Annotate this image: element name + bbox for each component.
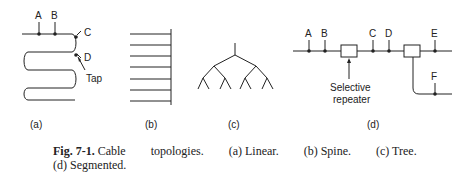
point-d-label: D xyxy=(385,28,392,39)
caption-part-c: (c) Tree. xyxy=(376,144,417,158)
point-c-label: C xyxy=(84,27,91,38)
selective-label: Selective xyxy=(330,82,371,93)
point-b-label: B xyxy=(321,28,328,39)
panel-c-label: (c) xyxy=(228,119,240,130)
panel-d-label: (d) xyxy=(367,119,379,130)
caption-part-a: (a) Linear. xyxy=(229,144,279,158)
point-b-label: B xyxy=(51,10,58,21)
figure-caption: Fig. 7-1. Cable topologies. (a) Linear. … xyxy=(53,144,453,172)
caption-part-d: (d) Segmented. xyxy=(53,158,126,172)
point-a-label: A xyxy=(305,28,312,39)
cable-topologies-figure: A B C D Tap (a) (b) (c) A B C D E F Sele… xyxy=(0,0,473,130)
caption-lead: Fig. 7-1. xyxy=(53,144,95,158)
point-f-label: F xyxy=(431,71,437,82)
panel-b-label: (b) xyxy=(145,119,157,130)
panel-a-label: (a) xyxy=(30,119,42,130)
linear-cable xyxy=(22,34,76,100)
point-c-label: C xyxy=(369,28,376,39)
point-a-label: A xyxy=(35,10,42,21)
repeater-label: repeater xyxy=(333,94,371,105)
caption-word2: topologies. xyxy=(151,144,204,158)
point-e-label: E xyxy=(431,28,438,39)
point-d-label: D xyxy=(84,52,91,63)
tap-label: Tap xyxy=(86,73,103,84)
caption-part-b: (b) Spine. xyxy=(304,144,351,158)
caption-word1: Cable xyxy=(98,144,126,158)
